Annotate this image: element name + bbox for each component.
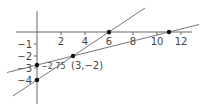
x-tick-label: 10 [151, 36, 164, 47]
data-point [167, 30, 171, 34]
series-line-1 [13, 8, 145, 96]
y-tick-label: −1 [17, 39, 32, 50]
series-lines [7, 8, 199, 96]
x-tick-label: 12 [175, 36, 188, 47]
x-tick-label: 4 [82, 36, 88, 47]
data-point [35, 63, 39, 67]
x-tick-label: 2 [58, 36, 64, 47]
annotations: −2.75(3,−2) [41, 60, 103, 71]
data-point [35, 78, 39, 82]
data-point [107, 30, 111, 34]
annotation-point: (3,−2) [71, 60, 103, 71]
y-ticks: −1−2−3−4 [17, 39, 37, 86]
y-tick-label: −2 [17, 51, 32, 62]
x-ticks: 24681012 [58, 32, 188, 47]
annotation-intercept: −2.75 [41, 62, 66, 71]
axes [16, 11, 192, 104]
x-tick-label: 6 [106, 36, 112, 47]
data-point [71, 54, 75, 58]
line-chart: 24681012 −1−2−3−4 −2.75(3,−2) [0, 0, 208, 106]
